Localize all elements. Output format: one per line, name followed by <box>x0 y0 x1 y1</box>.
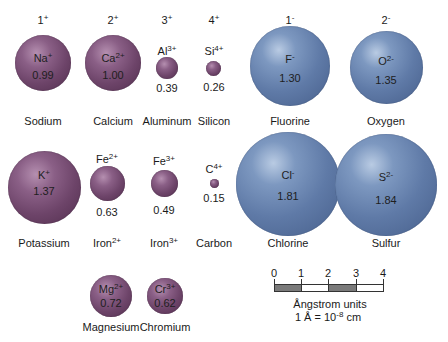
ion-charge: 2+ <box>115 51 124 60</box>
ion-radius-chromium: 0.62 <box>154 297 175 309</box>
charge-header-4plus: 4+ <box>209 14 220 26</box>
ion-symbol-iron2: Fe2+ <box>96 153 118 165</box>
symbol: Si <box>205 45 215 57</box>
ion-name-iron3: Iron3+ <box>150 237 178 249</box>
ion-symbol-chromium: Cr3+ <box>155 283 176 295</box>
scale-tick <box>328 279 329 285</box>
symbol: Cr <box>155 283 167 295</box>
charge-header-2minus: 2- <box>382 14 391 26</box>
ion-sphere-chlorine <box>236 132 340 236</box>
ion-charge: 4+ <box>213 162 222 171</box>
ion-charge: - <box>292 168 295 177</box>
symbol: Na <box>34 52 48 64</box>
scale-unit-label: Ångstrom units <box>293 298 366 310</box>
ion-symbol-potassium: K+ <box>38 169 50 181</box>
scale-tick <box>383 279 384 285</box>
scale-segment-3-4 <box>356 284 384 292</box>
ion-charge: 2+ <box>114 282 123 291</box>
symbol: F <box>285 53 292 65</box>
charge-sign: + <box>215 13 220 22</box>
ion-sphere-carbon <box>210 179 219 188</box>
ion-charge: 3+ <box>167 44 176 53</box>
ion-charge: 3+ <box>166 154 175 163</box>
symbol: Fe <box>96 153 109 165</box>
ion-name-sulfur: Sulfur <box>372 237 401 249</box>
scale-segment-2-3 <box>328 284 357 292</box>
name: Iron <box>93 237 112 249</box>
scale-tick <box>356 279 357 285</box>
ion-sphere-silicon <box>206 61 221 76</box>
ion-charge: 2- <box>387 54 394 63</box>
ion-charge: + <box>48 51 53 60</box>
ion-sphere-iron3 <box>151 170 178 197</box>
scale-tick-label-4: 4 <box>380 267 386 279</box>
ion-name-chlorine: Chlorine <box>268 237 309 249</box>
ion-radius-carbon: 0.15 <box>203 192 224 204</box>
ion-symbol-sodium: Na+ <box>34 52 53 64</box>
ion-symbol-fluorine: F- <box>285 53 294 65</box>
ion-name-aluminum: Aluminum <box>143 115 192 127</box>
ion-sphere-iron2 <box>90 166 125 201</box>
charge-sign: + <box>114 13 119 22</box>
scale-tick-label-3: 3 <box>353 267 359 279</box>
scale-segment-0-1 <box>274 284 302 292</box>
ion-name-sodium: Sodium <box>24 115 61 127</box>
ion-charge: 2+ <box>109 152 118 161</box>
ion-name-silicon: Silicon <box>198 115 230 127</box>
ion-name-potassium: Potassium <box>18 237 69 249</box>
ion-radius-calcium: 1.00 <box>102 69 123 81</box>
ion-radius-chlorine: 1.81 <box>277 190 298 202</box>
ion-symbol-chlorine: Cl- <box>281 169 294 181</box>
ion-symbol-aluminum: Al3+ <box>158 45 177 57</box>
symbol: Cl <box>281 169 291 181</box>
ion-symbol-magnesium: Mg2+ <box>99 283 123 295</box>
ion-radius-iron2: 0.63 <box>96 206 117 218</box>
symbol: O <box>378 55 387 67</box>
ion-radius-fluorine: 1.30 <box>279 72 300 84</box>
charge-header-1minus: 1- <box>286 14 295 26</box>
scale-tick-label-1: 1 <box>298 267 304 279</box>
conversion-suffix: cm <box>343 311 361 323</box>
ion-radius-iron3: 0.49 <box>153 204 174 216</box>
ion-symbol-calcium: Ca2+ <box>101 52 124 64</box>
charge-header-3plus: 3+ <box>162 14 173 26</box>
ion-radius-silicon: 0.26 <box>203 81 224 93</box>
ion-sphere-oxygen <box>350 31 423 104</box>
ion-radius-potassium: 1.37 <box>33 185 54 197</box>
name: Iron <box>150 237 169 249</box>
ion-charge: 2- <box>386 170 393 179</box>
charge-header-2plus: 2+ <box>108 14 119 26</box>
ion-radius-sodium: 0.99 <box>32 69 53 81</box>
ion-name-magnesium: Magnesium <box>83 321 140 333</box>
conversion-prefix: 1 Å = 10 <box>295 311 336 323</box>
symbol: Al <box>158 45 168 57</box>
charge-sign: - <box>292 13 295 22</box>
conversion-exponent: -8 <box>336 310 343 319</box>
ion-sphere-aluminum <box>156 57 178 79</box>
ion-name-oxygen: Oxygen <box>367 115 405 127</box>
ion-radius-magnesium: 0.72 <box>100 297 121 309</box>
scale-tick-label-0: 0 <box>271 267 277 279</box>
ion-name-calcium: Calcium <box>93 115 133 127</box>
ion-name-chromium: Chromium <box>140 321 191 333</box>
ion-symbol-sulfur: S2- <box>379 171 393 183</box>
ion-name-carbon: Carbon <box>196 237 232 249</box>
ion-sphere-magnesium <box>90 275 132 317</box>
ion-charge: 4+ <box>214 44 223 53</box>
ion-name-iron2: Iron2+ <box>93 237 121 249</box>
scale-segment-1-2 <box>301 284 329 292</box>
ion-symbol-iron3: Fe3+ <box>153 155 175 167</box>
ion-charge: - <box>292 52 295 61</box>
symbol: Fe <box>153 155 166 167</box>
ion-name-fluorine: Fluorine <box>270 115 310 127</box>
ion-sphere-sulfur <box>335 134 437 236</box>
scale-tick-label-2: 2 <box>325 267 331 279</box>
ion-radius-aluminum: 0.39 <box>156 82 177 94</box>
ion-sphere-fluorine <box>250 26 330 106</box>
ion-charge: 3+ <box>166 282 175 291</box>
charge-sign: + <box>44 13 49 22</box>
symbol: Ca <box>101 52 115 64</box>
name-charge: 3+ <box>169 236 178 245</box>
ion-radius-sulfur: 1.84 <box>375 194 396 206</box>
symbol: Mg <box>99 283 114 295</box>
